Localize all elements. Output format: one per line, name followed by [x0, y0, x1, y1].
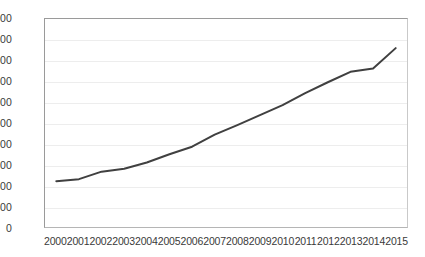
x-axis-tick-label: 2004	[135, 236, 158, 252]
x-axis-tick-label: 2015	[385, 236, 408, 252]
x-axis-tick-label: 2012	[317, 236, 340, 252]
y-axis-tick-label: 3,500	[0, 76, 12, 87]
y-axis-tick-label: 4,500	[0, 34, 12, 45]
line-chart: 5,0004,5004,0003,5003,0002,5002,0001,500…	[0, 0, 425, 257]
x-axis-tick-labels: 2000200120022003200420052006200720082009…	[44, 236, 408, 252]
x-axis-tick-label: 2000	[44, 236, 67, 252]
y-axis-tick-label: 2,500	[0, 118, 12, 129]
x-axis-tick-label: 2005	[158, 236, 181, 252]
y-axis-tick-label: 2,000	[0, 139, 12, 150]
y-axis-tick-label: 3,000	[0, 97, 12, 108]
x-axis-tick-label: 2013	[340, 236, 363, 252]
series-line-layer	[45, 19, 407, 227]
y-axis-tick-label: 0	[0, 223, 12, 234]
x-axis-tick-label: 2010	[272, 236, 295, 252]
plot-area	[44, 18, 408, 228]
x-axis-tick-label: 2014	[363, 236, 386, 252]
x-axis-tick-label: 2001	[67, 236, 90, 252]
y-axis-tick-label: 5,000	[0, 13, 12, 24]
y-axis-tick-label: 4,000	[0, 55, 12, 66]
x-axis-tick-label: 2008	[226, 236, 249, 252]
x-axis-tick-label: 2007	[203, 236, 226, 252]
y-axis-tick-label: 1,000	[0, 181, 12, 192]
x-axis-tick-label: 2003	[112, 236, 135, 252]
x-axis-tick-label: 2009	[249, 236, 272, 252]
series-line-0	[56, 48, 395, 181]
y-axis-tick-label: 1,500	[0, 160, 12, 171]
x-axis-tick-label: 2006	[181, 236, 204, 252]
y-axis-tick-label: 500	[0, 202, 12, 213]
x-axis-tick-label: 2011	[294, 236, 317, 252]
x-axis-tick-label: 2002	[90, 236, 113, 252]
